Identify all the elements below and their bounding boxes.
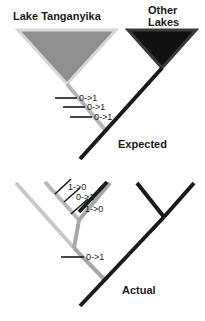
phylogeny-figure: Lake Tanganyika Other Lakes 0->1 0->1 [0,0,205,321]
change-group-actual-4: 0->1 [61,252,104,262]
panel-expected: Lake Tanganyika Other Lakes 0->1 0->1 [13,4,196,159]
clade-label-other-lakes-line1: Other [148,4,178,16]
clade-triangle-lake-tanganyika [18,30,116,84]
branch-actual-internal-gray [74,220,79,248]
figure-root: Lake Tanganyika Other Lakes 0->1 0->1 [0,0,205,321]
branch-actual-tip-1 [16,183,74,248]
branch-actual-tip-6-black [164,183,194,217]
panel-label-actual: Actual [122,284,156,296]
branch-actual-tip-5-black [137,183,164,217]
clade-triangle-other-lakes [128,30,196,68]
change-label: 0->1 [87,102,105,112]
change-label: 0->1 [94,112,112,122]
change-label: 0->1 [86,252,104,262]
change-label: 1->0 [85,204,103,214]
panel-label-expected: Expected [118,138,167,150]
clade-label-other-lakes-line2: Lakes [148,16,179,28]
clade-label-lake-tanganyika: Lake Tanganyika [13,10,102,22]
panel-actual: 1->0 0->1 1->0 0->1 Actual [16,179,194,306]
